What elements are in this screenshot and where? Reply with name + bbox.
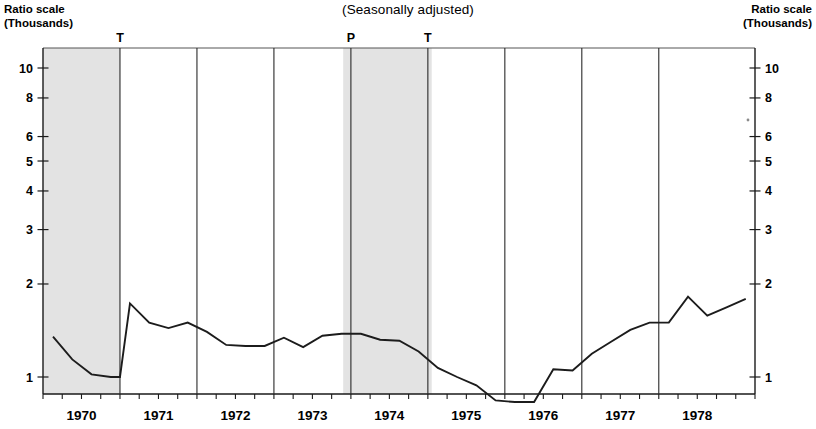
print-speck (747, 119, 750, 122)
y-tick-label-right-2: 2 (765, 277, 772, 291)
y-tick-label-right-5: 5 (765, 155, 772, 169)
x-tick-label-1974: 1974 (374, 408, 405, 423)
y-tick-label-right-1: 1 (765, 371, 772, 385)
cycle-marker-p-2: P (347, 31, 355, 45)
y-tick-label-right-10: 10 (765, 62, 779, 76)
plot-area: 112233445566881010 197019711972197319741… (0, 0, 816, 429)
x-tick-label-1970: 1970 (66, 408, 96, 423)
y-tick-label-right-4: 4 (765, 184, 772, 198)
y-tick-label-left-1: 1 (26, 371, 33, 385)
cycle-marker-t-3: T (424, 31, 432, 45)
y-tick-label-right-3: 3 (765, 223, 772, 237)
x-tick-label-1972: 1972 (220, 408, 250, 423)
x-tick-label-1973: 1973 (297, 408, 328, 423)
y-tick-label-right-8: 8 (765, 91, 772, 105)
chart-figure: (Seasonally adjusted) Ratio scale (Thous… (0, 0, 816, 429)
x-tick-label-1978: 1978 (682, 408, 713, 423)
y-tick-label-left-5: 5 (26, 155, 33, 169)
x-axis-ticks-group: 197019711972197319741975197619771978 (43, 394, 755, 423)
y-tick-label-left-8: 8 (26, 91, 33, 105)
x-tick-label-1976: 1976 (528, 408, 559, 423)
y-tick-label-right-6: 6 (765, 130, 772, 144)
recession-band-2 (343, 48, 432, 394)
cycle-markers-group: TPT (116, 31, 432, 45)
y-tick-label-left-10: 10 (19, 62, 33, 76)
y-tick-label-left-6: 6 (26, 130, 33, 144)
y-tick-label-left-3: 3 (26, 223, 33, 237)
x-tick-label-1971: 1971 (143, 408, 174, 423)
recession-shading-group (43, 48, 432, 394)
y-tick-label-left-2: 2 (26, 277, 33, 291)
recession-band-1 (43, 48, 120, 394)
y-tick-label-left-4: 4 (26, 184, 33, 198)
x-tick-label-1975: 1975 (451, 408, 482, 423)
x-tick-label-1977: 1977 (605, 408, 635, 423)
cycle-marker-t-1: T (116, 31, 124, 45)
